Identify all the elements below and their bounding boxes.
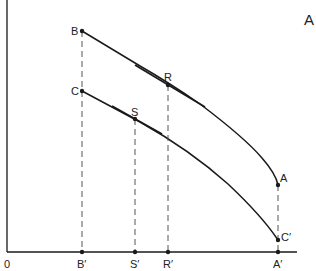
curve-upper-BA [82,31,278,185]
axis-label-Sprime: S′ [130,258,139,270]
axis-label-Aprime: A′ [273,258,282,270]
axis-label-Rprime: R′ [163,258,173,270]
label-Cprime: C′ [281,231,291,243]
label-A: A [280,172,288,184]
point-R [166,83,170,87]
origin-label: 0 [4,258,10,270]
tick-Aprime [276,250,280,254]
tick-Rprime [166,250,170,254]
tick-Bprime [80,250,84,254]
point-Cprime [276,238,280,242]
label-C: C [71,85,79,97]
panel-label: A [304,11,314,28]
curve-lower-CC [82,91,278,240]
tick-Sprime [133,250,137,254]
point-B [80,29,84,33]
diagram-canvas: B C R S A C′ 0 B′ S′ R′ A′ A [0,0,316,271]
label-R: R [164,71,172,83]
label-S: S [131,106,138,118]
axis-label-Bprime: B′ [77,258,86,270]
label-B: B [71,25,78,37]
point-C [80,89,84,93]
